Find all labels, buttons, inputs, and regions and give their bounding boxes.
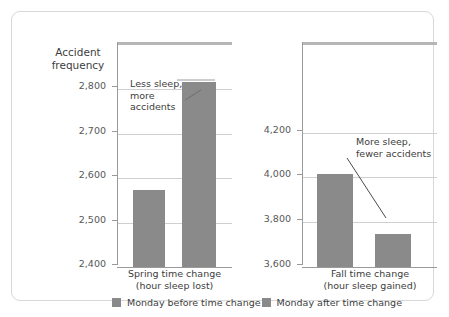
legend-item-after: Monday after time change: [262, 297, 402, 308]
tick-spring-2700: [112, 131, 117, 132]
legend-swatch-icon-before: [112, 298, 121, 307]
y-axis-spine-spring: [117, 42, 118, 265]
tick-label-fall-3800: 3,800: [255, 213, 291, 224]
bar-spring-before: [133, 190, 165, 267]
legend-item-before: Monday before time change: [112, 297, 261, 308]
tick-fall-4000: [297, 174, 302, 175]
y-axis-spine-fall: [302, 42, 303, 265]
tick-label-spring-2400: 2,400: [70, 258, 106, 269]
legend-label-before: Monday before time change: [127, 297, 261, 308]
annotation-fall: More sleep, fewer accidents: [356, 136, 449, 159]
tick-label-spring-2800: 2,800: [70, 80, 106, 91]
tick-spring-2500: [112, 220, 117, 221]
leader-line-fall: [342, 158, 388, 220]
tick-spring-2800: [112, 86, 117, 87]
tick-fall-3800: [297, 219, 302, 220]
category-label-spring: Spring time change (hour sleep lost): [112, 268, 237, 291]
y-axis-title: Accident frequency: [35, 46, 121, 71]
bar-fall-after: [375, 234, 411, 267]
tick-label-fall-4000: 4,000: [255, 168, 291, 179]
tick-spring-2400: [112, 264, 117, 265]
chart-frame: Accident frequency 2,800 2,700 2,600 2,5…: [11, 11, 434, 301]
tick-label-spring-2600: 2,600: [70, 169, 106, 180]
tick-spring-2600: [112, 175, 117, 176]
tick-fall-3600: [297, 264, 302, 265]
gridline-fall-4200: [302, 133, 437, 134]
leader-line-spring: [177, 72, 217, 108]
tick-label-fall-4200: 4,200: [255, 124, 291, 135]
tick-label-fall-3600: 3,600: [255, 258, 291, 269]
tick-label-spring-2700: 2,700: [70, 125, 106, 136]
legend-label-after: Monday after time change: [277, 297, 402, 308]
legend-swatch-icon-after: [262, 298, 271, 307]
tick-label-spring-2500: 2,500: [70, 214, 106, 225]
tick-fall-4200: [297, 130, 302, 131]
chart-legend: Monday before time change Monday after t…: [112, 297, 402, 308]
category-label-fall: Fall time change (hour sleep gained): [300, 268, 440, 291]
